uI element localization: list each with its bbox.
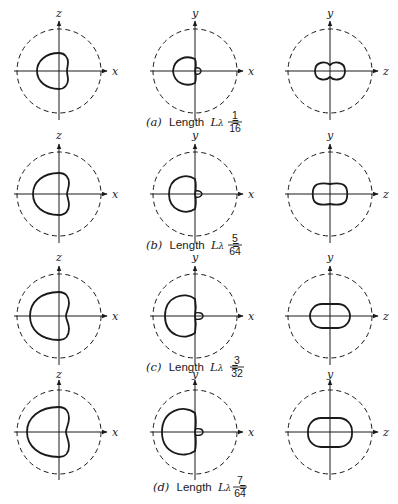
axis-label-y: y [191,251,199,264]
row-c: z x y x y z (c) Length Lλ = [14,251,389,379]
axis-label-z: z [55,368,62,381]
axis-label-y: y [191,368,199,381]
pattern-c-yz: y z [285,251,389,365]
radiation-pattern-figure: z x y x y z (a) Length L [0,0,398,504]
pattern-c-xy: y x [150,251,255,365]
pattern-a-yz: y z [285,7,389,120]
pattern-c-xz: z x [14,251,119,365]
axis-label-x: x [248,310,255,323]
pattern-b-yz: y z [285,129,389,243]
fraction-denominator: 64 [234,487,246,499]
pattern-a-xy: y x [150,7,255,120]
pattern-b-xy: y x [150,129,255,243]
fraction-denominator: 16 [229,122,241,134]
fraction-numerator: 5 [232,232,238,244]
axis-label-x: x [112,65,119,78]
pattern-b-xz: z x [14,129,119,243]
caption-subscript: λ [218,241,225,251]
pattern-d-yz: y z [285,368,389,480]
pattern-d-xz: z x [14,368,119,480]
caption-letter: (d) [153,480,169,494]
axis-label-x: x [248,426,255,439]
axis-label-y: y [191,129,199,142]
caption-subscript: λ [217,118,224,128]
axis-label-x: x [112,188,119,201]
caption-text: Length [170,239,205,251]
pattern-a-xz: z x [14,7,119,120]
svg-text:(b) Length Lλ: (b) Length Lλ = [146,238,240,252]
caption-letter: (a) [146,115,162,129]
caption-subscript: λ [217,363,224,373]
caption-symbol: L [209,360,218,374]
fraction-numerator: 3 [234,354,240,366]
axis-label-z: z [55,7,62,20]
pattern-d-xy: y x [150,368,255,480]
axis-label-x: x [112,426,119,439]
axis-label-z: z [382,65,389,78]
axis-label-z: z [55,251,62,264]
axis-label-y: y [326,7,334,20]
caption-symbol: L [210,238,219,252]
caption-letter: (c) [146,360,161,374]
axis-label-y: y [326,368,334,381]
caption-text: Length [169,116,204,128]
axis-label-z: z [382,188,389,201]
caption-text: Length [177,481,212,493]
fraction-numerator: 1 [232,109,238,121]
row-b: z x y x y z (b) Length Lλ = [14,129,389,257]
caption-text: Length [169,361,204,373]
axis-label-z: z [382,310,389,323]
axis-label-y: y [191,7,199,20]
axis-label-x: x [248,188,255,201]
axis-label-z: z [55,129,62,142]
axis-label-x: x [248,65,255,78]
fraction-denominator: 64 [229,245,241,257]
caption-subscript: λ [225,483,232,493]
row-d: z x y x y z (d) Length Lλ = [14,368,389,499]
svg-text:(d) Length Lλ: (d) Length Lλ = [153,480,247,494]
caption-symbol: L [209,115,218,129]
fraction-numerator: 7 [237,474,243,486]
caption-d: (d) Length Lλ = 7 64 [153,474,247,499]
svg-text:(a) Length Lλ: (a) Length Lλ = [146,115,239,129]
axis-label-x: x [112,310,119,323]
row-a: z x y x y z (a) Length L [14,7,389,134]
axis-label-z: z [382,426,389,439]
caption-symbol: L [217,480,226,494]
fraction-denominator: 32 [231,367,243,379]
caption-letter: (b) [146,238,162,252]
axis-label-y: y [326,251,334,264]
axis-label-y: y [326,129,334,142]
